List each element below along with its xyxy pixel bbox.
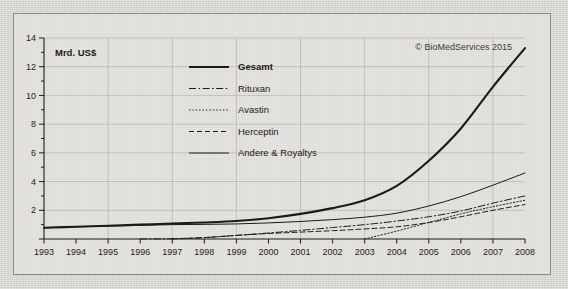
line-chart: 1412108642199319941995199619971998199920… [14,14,552,276]
legend-label: Rituxan [238,83,270,94]
x-tick-label: 1997 [162,247,182,257]
y-tick-label: 10 [26,91,36,101]
x-tick-label: 1993 [34,247,54,257]
y-tick-label: 4 [31,177,36,187]
x-tick-label: 2000 [258,247,278,257]
y-tick-label: 8 [31,119,36,129]
x-tick-label: 1999 [226,247,246,257]
credit-label: © BioMedServices 2015 [415,42,512,52]
series-line-gesamt [44,48,525,228]
unit-label: Mrd. US$ [55,47,97,58]
x-tick-label: 2004 [387,247,407,257]
legend-label: Avastin [238,104,269,115]
legend-label: Herceptin [238,126,279,137]
x-tick-label: 2006 [451,247,471,257]
x-tick-label: 2001 [291,247,311,257]
x-tick-label: 1998 [194,247,214,257]
x-tick-label: 2007 [483,247,503,257]
y-tick-label: 12 [26,62,36,72]
x-tick-label: 2003 [355,247,375,257]
series-line-rituxan [140,196,525,239]
legend-label: Andere & Royaltys [238,147,317,158]
y-tick-label: 14 [26,33,36,43]
chart-card: 1412108642199319941995199619971998199920… [13,13,551,275]
x-tick-label: 1994 [66,247,86,257]
y-tick-label: 6 [31,148,36,158]
x-tick-label: 1995 [98,247,118,257]
x-tick-label: 2005 [419,247,439,257]
y-tick-label: 2 [31,205,36,215]
x-tick-label: 2008 [515,247,535,257]
x-tick-label: 2002 [323,247,343,257]
x-tick-label: 1996 [130,247,150,257]
legend-label: Gesamt [238,61,274,72]
